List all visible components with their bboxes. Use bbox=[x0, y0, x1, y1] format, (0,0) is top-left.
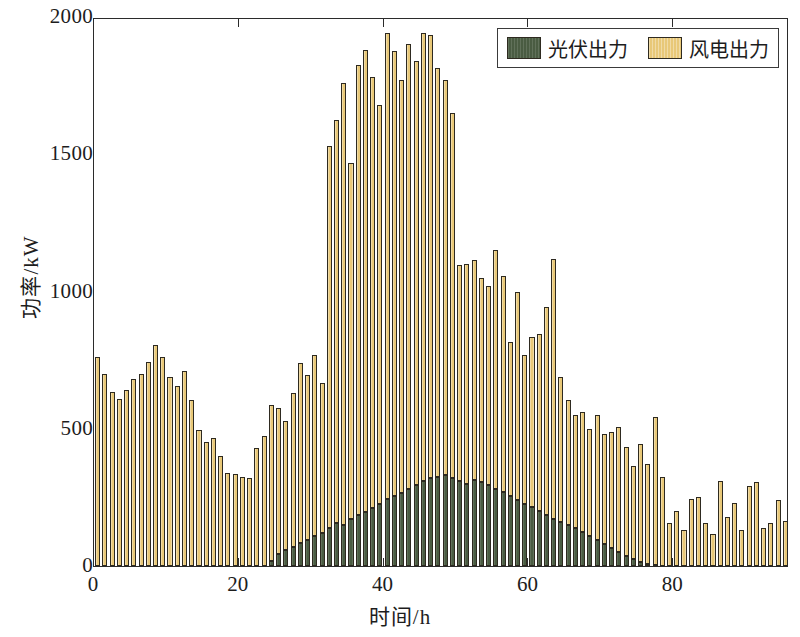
x-tick-label: 80 bbox=[662, 572, 683, 597]
bar-column bbox=[761, 528, 766, 566]
bar-column bbox=[269, 405, 274, 566]
bar-segment-wind bbox=[370, 77, 375, 508]
bar-column bbox=[196, 430, 201, 566]
bar-segment-wind bbox=[696, 497, 701, 566]
bar-segment-pv bbox=[334, 523, 339, 566]
bar-column bbox=[327, 146, 332, 566]
bar-segment-wind bbox=[718, 481, 723, 566]
legend-entry-pv: 光伏出力 bbox=[507, 34, 628, 63]
bar-segment-wind bbox=[146, 362, 151, 567]
bar-column bbox=[95, 357, 100, 566]
bar-segment-pv bbox=[522, 504, 527, 566]
bar-segment-wind bbox=[479, 278, 484, 483]
bar-segment-wind bbox=[291, 393, 296, 547]
bar-segment-pv bbox=[363, 512, 368, 566]
bar-segment-wind bbox=[283, 421, 288, 550]
plot-area bbox=[93, 18, 788, 567]
bar-column bbox=[609, 432, 614, 567]
bar-segment-wind bbox=[587, 429, 592, 536]
x-tick-mark-top bbox=[672, 18, 673, 27]
bar-segment-pv bbox=[450, 478, 455, 566]
bar-column bbox=[406, 44, 411, 566]
bar-segment-pv bbox=[631, 559, 636, 566]
bar-segment-pv bbox=[406, 489, 411, 566]
bar-segment-wind bbox=[189, 400, 194, 566]
bar-segment-wind bbox=[768, 523, 773, 566]
x-tick-mark bbox=[238, 558, 239, 567]
bar-segment-pv bbox=[573, 528, 578, 566]
bar-segment-wind bbox=[435, 68, 440, 477]
bar-segment-pv bbox=[501, 492, 506, 566]
bar-segment-wind bbox=[493, 250, 498, 489]
bar-column bbox=[595, 415, 600, 566]
bar-column bbox=[537, 334, 542, 566]
bar-column bbox=[696, 497, 701, 566]
bar-segment-pv bbox=[537, 511, 542, 566]
bar-column bbox=[211, 438, 216, 566]
bar-column bbox=[139, 374, 144, 566]
bar-segment-wind bbox=[624, 447, 629, 557]
bar-segment-pv bbox=[609, 548, 614, 566]
bar-segment-wind bbox=[428, 35, 433, 478]
bar-segment-wind bbox=[674, 511, 679, 566]
bar-segment-wind bbox=[732, 503, 737, 566]
bar-segment-pv bbox=[616, 552, 621, 566]
bar-column bbox=[638, 444, 643, 566]
bar-column bbox=[370, 77, 375, 566]
bar-column bbox=[747, 486, 752, 566]
bar-segment-wind bbox=[464, 264, 469, 484]
bar-segment-wind bbox=[573, 415, 578, 528]
bar-column bbox=[247, 478, 252, 566]
bar-segment-pv bbox=[348, 519, 353, 566]
bar-column bbox=[558, 377, 563, 566]
bar-segment-wind bbox=[334, 120, 339, 524]
bar-segment-pv bbox=[377, 504, 382, 566]
bar-column bbox=[653, 417, 658, 566]
bar-segment-pv bbox=[464, 484, 469, 566]
bar-segment-wind bbox=[631, 466, 636, 559]
bar-segment-pv bbox=[312, 536, 317, 566]
bar-segment-wind bbox=[348, 163, 353, 520]
bar-column bbox=[204, 442, 209, 566]
y-tick-label: 1000 bbox=[50, 279, 93, 304]
bar-column bbox=[182, 371, 187, 566]
bar-segment-wind bbox=[602, 434, 607, 544]
bar-segment-wind bbox=[247, 478, 252, 566]
bar-segment-wind bbox=[450, 113, 455, 478]
bar-segment-pv bbox=[595, 540, 600, 566]
bar-segment-pv bbox=[624, 556, 629, 566]
bar-segment-wind bbox=[529, 337, 534, 507]
bar-column bbox=[493, 250, 498, 566]
bar-column bbox=[233, 474, 238, 566]
bar-segment-wind bbox=[747, 486, 752, 566]
bar-segment-wind bbox=[515, 292, 520, 501]
x-axis-title: 时间/h bbox=[0, 600, 800, 630]
bar-column bbox=[674, 511, 679, 566]
x-tick-label: 40 bbox=[372, 572, 393, 597]
bar-column bbox=[399, 80, 404, 566]
bar-segment-wind bbox=[204, 442, 209, 566]
bar-column bbox=[276, 408, 281, 566]
bar-column bbox=[515, 292, 520, 567]
bar-segment-wind bbox=[580, 412, 585, 531]
legend-entry-wind: 风电出力 bbox=[648, 34, 769, 63]
bar-column bbox=[363, 50, 368, 566]
bar-segment-wind bbox=[262, 436, 267, 566]
bar-segment-wind bbox=[298, 363, 303, 543]
bar-column bbox=[240, 477, 245, 566]
bar-segment-wind bbox=[312, 355, 317, 536]
bar-segment-wind bbox=[566, 400, 571, 525]
bar-column bbox=[225, 473, 230, 566]
bar-segment-wind bbox=[225, 473, 230, 566]
bar-column bbox=[117, 399, 122, 566]
bar-segment-wind bbox=[182, 371, 187, 566]
bar-column bbox=[660, 477, 665, 566]
bar-column bbox=[254, 448, 259, 566]
bar-segment-wind bbox=[167, 377, 172, 566]
bar-segment-wind bbox=[725, 517, 730, 566]
bars-layer bbox=[94, 19, 787, 566]
bar-column bbox=[776, 500, 781, 566]
bar-segment-pv bbox=[291, 547, 296, 566]
bar-segment-wind bbox=[689, 499, 694, 566]
y-tick-label: 500 bbox=[61, 416, 93, 441]
